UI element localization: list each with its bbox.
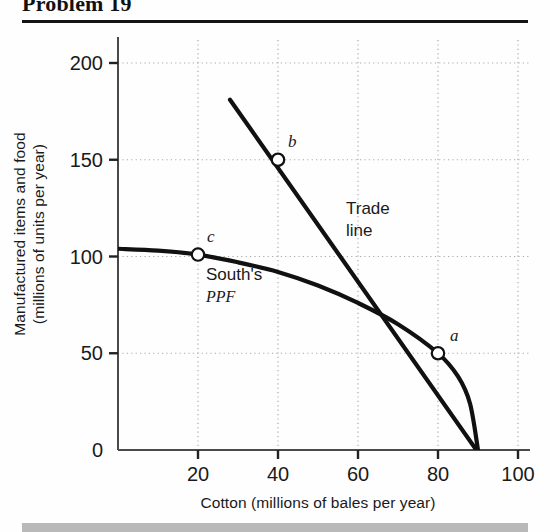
- trade-line-label-line2: line: [346, 221, 372, 240]
- axis-lines: [118, 37, 530, 450]
- y-tick-label-200: 200: [70, 52, 103, 74]
- x-tick-label-60: 60: [347, 463, 369, 485]
- data-point-label-c: c: [207, 227, 215, 246]
- data-point-label-b: b: [288, 132, 297, 151]
- data-point-label-a: a: [450, 326, 459, 345]
- x-tick-label-100: 100: [501, 463, 534, 485]
- x-tick-label-20: 20: [187, 463, 209, 485]
- y-tick-label-0: 0: [92, 439, 103, 461]
- data-points: abc: [192, 132, 459, 360]
- gridlines: [118, 40, 530, 450]
- data-point-a: [432, 347, 444, 359]
- axis-ticks: [109, 63, 518, 459]
- y-tick-label-150: 150: [70, 149, 103, 171]
- trade-line-label-line1: Trade: [346, 199, 390, 218]
- footer-bar: [22, 523, 528, 532]
- series-trade-line: [230, 100, 490, 470]
- ppf-chart: 05010015020020406080100 abc TradelineSou…: [0, 0, 550, 532]
- data-curves: [118, 100, 490, 470]
- series-south-s-ppf: [118, 249, 478, 450]
- y-tick-label-100: 100: [70, 246, 103, 268]
- ppf-label-line2: PPF: [205, 288, 236, 305]
- data-point-c: [192, 248, 204, 260]
- x-tick-label-40: 40: [267, 463, 289, 485]
- figure-page: Problem 19 Manufactured items and food (…: [0, 0, 550, 532]
- y-tick-label-50: 50: [81, 342, 103, 364]
- axis-tick-labels: 05010015020020406080100: [70, 52, 535, 485]
- data-point-b: [272, 154, 284, 166]
- x-tick-label-80: 80: [427, 463, 449, 485]
- ppf-label-line1: South's: [206, 265, 262, 284]
